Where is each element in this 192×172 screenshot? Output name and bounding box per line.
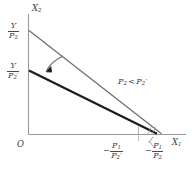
y-intercept-high-label: Y P2 [8, 22, 19, 40]
y-intercept-low-label: Y P2′ [7, 62, 19, 80]
x-intercept-far-label: − P1 P2 [145, 142, 163, 160]
budget-line-figure: X2 X1 O Y P2 Y P2′ − P1 P2′ − P1 P2 P2<P [0, 0, 192, 172]
inequality-annotation: P2<P2′ [118, 78, 147, 86]
figure-canvas [0, 0, 192, 172]
x-axis-label: X1 [172, 138, 182, 147]
x-intercept-near-label: − P1 P2′ [103, 142, 123, 160]
y-axis-label: X2 [32, 4, 42, 13]
origin-label: O [17, 140, 24, 149]
